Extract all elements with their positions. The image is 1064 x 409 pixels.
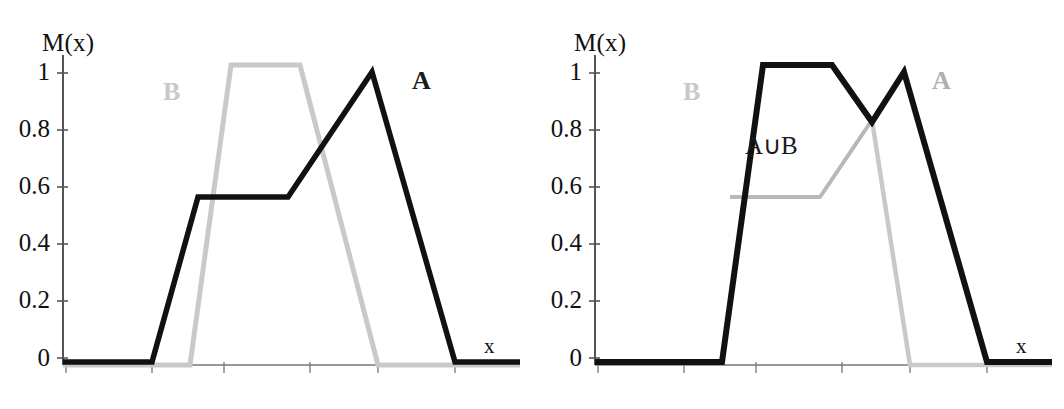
y-tick-label-0-left: 0 — [10, 345, 50, 370]
fuzzy-union-figure: M(x) 1 0.8 0.6 0.4 0.2 0 x B A — [0, 0, 1064, 409]
y-tick-label-0.8-left: 0.8 — [0, 116, 50, 141]
y-tick-label-1-right: 1 — [542, 59, 582, 84]
y-tick-label-0-right: 0 — [542, 345, 582, 370]
y-tick-label-0.6-left: 0.6 — [0, 173, 50, 198]
series-label-a-left: A — [412, 68, 431, 94]
curve-union-right — [595, 65, 1052, 362]
curve-a-left — [63, 72, 520, 362]
chart-canvas-left — [0, 0, 532, 409]
series-label-union-right: A∪B — [745, 133, 798, 158]
y-tick-label-0.4-left: 0.4 — [0, 230, 50, 255]
x-axis-label-right: x — [1016, 336, 1027, 357]
y-axis-title-right: M(x) — [574, 30, 626, 55]
curve-b-residual-right — [872, 120, 1052, 365]
y-tick-label-0.2-right: 0.2 — [530, 287, 582, 312]
y-tick-label-0.6-right: 0.6 — [530, 173, 582, 198]
curve-b-left — [63, 65, 520, 365]
series-label-a-right: A — [932, 68, 951, 94]
y-tick-label-1-left: 1 — [10, 59, 50, 84]
y-tick-label-0.2-left: 0.2 — [0, 287, 50, 312]
series-label-b-left: B — [163, 79, 180, 105]
chart-panel-left: M(x) 1 0.8 0.6 0.4 0.2 0 x B A — [0, 0, 532, 409]
y-axis-title-left: M(x) — [42, 30, 94, 55]
x-axis-label-left: x — [484, 336, 495, 357]
chart-canvas-right — [532, 0, 1064, 409]
y-tick-label-0.8-right: 0.8 — [530, 116, 582, 141]
y-tick-label-0.4-right: 0.4 — [530, 230, 582, 255]
chart-panel-right: M(x) 1 0.8 0.6 0.4 0.2 0 x B A A∪B — [532, 0, 1064, 409]
series-label-b-right: B — [683, 79, 700, 105]
